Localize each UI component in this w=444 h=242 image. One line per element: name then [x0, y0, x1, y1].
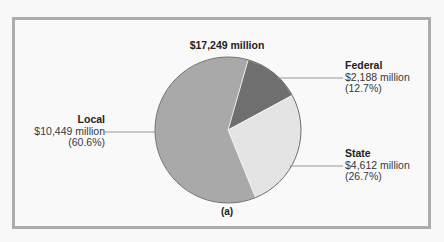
figure: $17,249 million Federal $2,188 million (…: [0, 0, 444, 242]
pie-slices: [155, 57, 301, 203]
label-state: State $4,612 million (26.7%): [345, 148, 410, 183]
label-local: Local $10,449 million (60.6%): [34, 114, 105, 149]
chart-title-text: $17,249 million: [190, 39, 265, 51]
label-federal: Federal $2,188 million (12.7%): [345, 60, 410, 95]
label-state-name: State: [345, 148, 410, 160]
label-state-percent: (26.7%): [345, 171, 410, 183]
figure-caption-text: (a): [221, 206, 233, 217]
figure-caption: (a): [0, 206, 444, 217]
chart-title: $17,249 million: [0, 39, 444, 51]
label-federal-name: Federal: [345, 60, 410, 72]
label-federal-percent: (12.7%): [345, 83, 410, 95]
label-local-percent: (60.6%): [34, 137, 105, 149]
label-local-name: Local: [34, 114, 105, 126]
